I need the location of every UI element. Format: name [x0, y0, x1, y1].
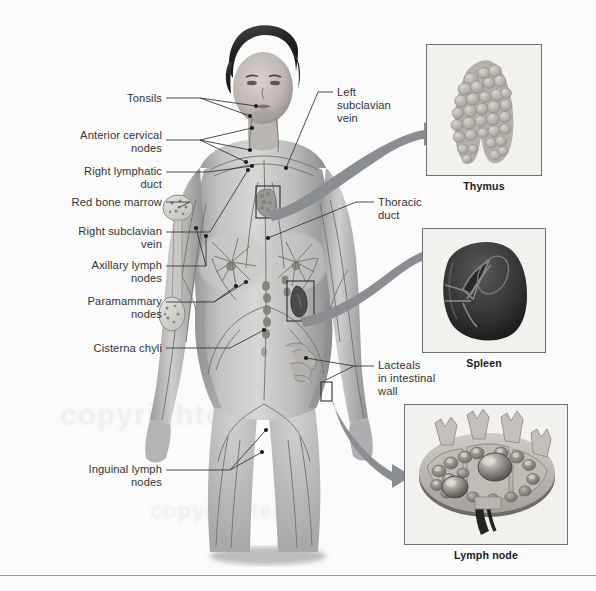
label-tonsils: Tonsils	[100, 92, 162, 105]
label-right-lymphatic-duct: Right lymphatic duct	[50, 165, 162, 191]
label-lacteals: Lacteals in intestinal wall	[378, 359, 464, 399]
inset-caption-lymph-node: Lymph node	[404, 549, 568, 561]
label-paramammary-nodes: Paramammary nodes	[62, 295, 162, 321]
label-left-subclavian-vein: Left subclavian vein	[337, 86, 417, 126]
label-cisterna-chyli: Cisterna chyli	[58, 342, 162, 355]
label-right-subclavian-vein: Right subclavian vein	[46, 225, 162, 251]
label-red-bone-marrow: Red bone marrow	[40, 196, 162, 209]
footer-rule	[0, 575, 596, 576]
inset-thymus	[426, 44, 542, 176]
label-anterior-cervical-nodes: Anterior cervical nodes	[52, 129, 162, 155]
label-axillary-lymph-nodes: Axillary lymph nodes	[58, 259, 162, 285]
inset-caption-thymus: Thymus	[426, 180, 542, 192]
lymphatic-system-figure: copyrighted copyrighted	[0, 0, 596, 591]
label-inguinal-lymph-nodes: Inguinal lymph nodes	[48, 463, 162, 489]
inset-lymph-node	[404, 404, 568, 545]
label-thoracic-duct: Thoracic duct	[378, 196, 452, 222]
inset-spleen	[422, 228, 546, 353]
